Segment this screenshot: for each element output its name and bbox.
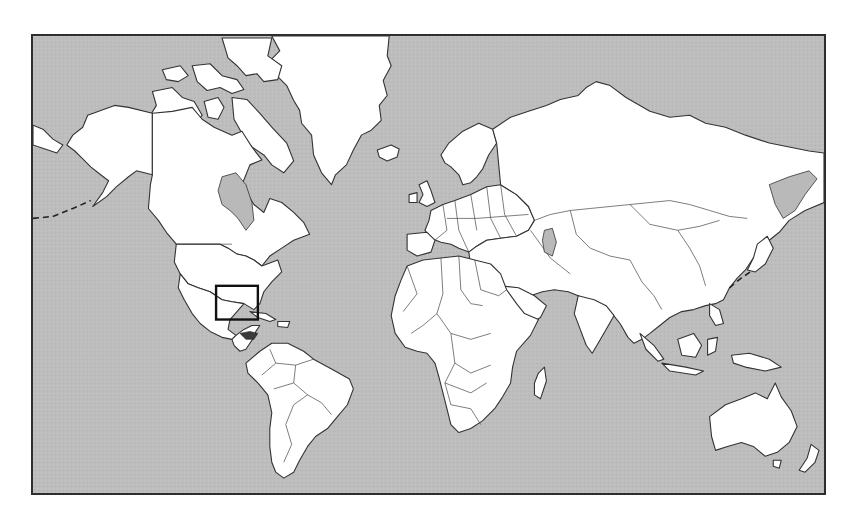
hispaniola bbox=[278, 322, 290, 328]
ireland bbox=[409, 193, 417, 203]
iberia bbox=[407, 232, 435, 256]
world-map bbox=[31, 34, 826, 495]
world-map-svg bbox=[33, 36, 824, 493]
tasmania bbox=[773, 460, 781, 468]
